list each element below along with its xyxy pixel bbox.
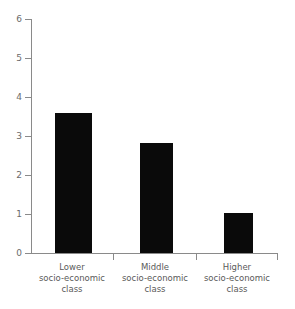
- x-axis-tick: [196, 254, 197, 260]
- y-axis-tick: [25, 97, 31, 98]
- category-label-line: class: [110, 284, 200, 295]
- y-axis-tick: [25, 214, 31, 215]
- y-axis-tick-label: 0: [8, 249, 22, 258]
- y-axis-tick-label: 6: [8, 15, 22, 24]
- y-axis-tick: [25, 58, 31, 59]
- category-label-lower: Lower socio-economic class: [27, 262, 117, 295]
- category-label-line: Lower: [27, 262, 117, 273]
- x-axis-tick: [113, 254, 114, 260]
- bar-middle: [140, 143, 173, 253]
- category-label-higher: Higher socio-economic class: [192, 262, 282, 295]
- y-axis-tick: [25, 136, 31, 137]
- bar-lower: [55, 113, 92, 253]
- category-label-line: socio-economic: [110, 273, 200, 284]
- category-label-middle: Middle socio-economic class: [110, 262, 200, 295]
- bar-higher: [224, 213, 253, 253]
- category-label-line: class: [192, 284, 282, 295]
- y-axis-tick-label: 4: [8, 93, 22, 102]
- y-axis-tick-label: 2: [8, 171, 22, 180]
- x-axis-line: [31, 253, 278, 254]
- y-axis-tick: [25, 19, 31, 20]
- x-axis-tick: [277, 254, 278, 260]
- bar-chart: 0123456 Lower socio-economic class Middl…: [0, 0, 295, 309]
- y-axis-tick: [25, 175, 31, 176]
- y-axis-tick-label: 3: [8, 132, 22, 141]
- y-axis-tick: [25, 253, 31, 254]
- category-label-line: Higher: [192, 262, 282, 273]
- y-axis-tick-label: 5: [8, 54, 22, 63]
- category-label-line: class: [27, 284, 117, 295]
- y-axis-tick-label: 1: [8, 210, 22, 219]
- y-axis-line: [31, 19, 32, 254]
- category-label-line: socio-economic: [192, 273, 282, 284]
- category-label-line: socio-economic: [27, 273, 117, 284]
- category-label-line: Middle: [110, 262, 200, 273]
